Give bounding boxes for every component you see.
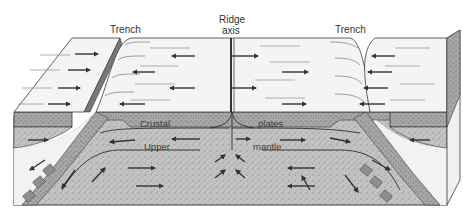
right-outer-plate-top: [365, 38, 447, 112]
left-outer-plate-front: [14, 112, 72, 127]
label-trench-left: Trench: [110, 24, 141, 35]
right-outer-plate-front: [390, 112, 447, 127]
center-plate-top: [96, 38, 370, 112]
label-plates: plates: [258, 119, 283, 129]
label-crustal: Crustal: [140, 119, 170, 129]
label-mantle: mantle: [253, 142, 282, 152]
label-trench-right: Trench: [335, 24, 366, 35]
label-ridge-line2: axis: [222, 25, 240, 36]
label-upper: Upper: [144, 142, 170, 152]
label-ridge-line1: Ridge: [219, 14, 245, 25]
